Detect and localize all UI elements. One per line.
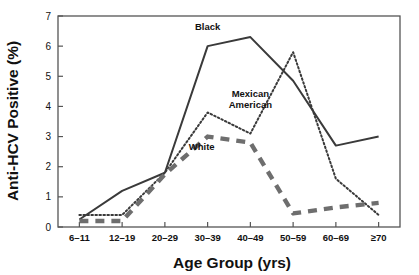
y-tick-label: 3 <box>45 131 51 142</box>
x-axis-ticks <box>79 222 378 227</box>
x-axis-tick-labels: 6–1112–1920–2930–3940–4950–5960–69≥70 <box>69 232 386 243</box>
series-lines <box>79 37 378 221</box>
series-annotation-label: American <box>229 99 272 110</box>
y-tick-label: 7 <box>45 11 51 22</box>
x-tick-label: 60–69 <box>323 232 349 243</box>
y-axis-tick-labels: 01234567 <box>45 11 51 233</box>
x-tick-label: 6–11 <box>69 232 90 243</box>
series-line-white <box>79 137 378 221</box>
series-annotation-label: Mexican <box>232 88 270 99</box>
line-chart: 01234567 6–1112–1920–2930–3940–4950–5960… <box>0 0 419 275</box>
x-tick-label: 20–29 <box>152 232 178 243</box>
series-line-black <box>79 37 378 219</box>
y-tick-label: 6 <box>45 41 51 52</box>
y-axis-title: Anti-HCV Positive (%) <box>4 41 21 201</box>
series-annotation-label: Black <box>195 21 221 32</box>
figure-container: 01234567 6–1112–1920–2930–3940–4950–5960… <box>0 0 419 275</box>
series-annotation-label: White <box>189 141 215 152</box>
x-tick-label: ≥70 <box>371 232 387 243</box>
x-tick-label: 50–59 <box>280 232 306 243</box>
y-axis-ticks <box>58 16 63 227</box>
y-tick-label: 0 <box>45 222 51 233</box>
x-tick-label: 12–19 <box>109 232 135 243</box>
y-tick-label: 2 <box>45 161 51 172</box>
y-tick-label: 4 <box>45 101 51 112</box>
x-axis-title: Age Group (yrs) <box>173 254 291 271</box>
x-tick-label: 30–39 <box>194 232 220 243</box>
plot-frame <box>58 16 400 227</box>
y-tick-label: 1 <box>45 191 51 202</box>
x-tick-label: 40–49 <box>237 232 263 243</box>
y-tick-label: 5 <box>45 71 51 82</box>
